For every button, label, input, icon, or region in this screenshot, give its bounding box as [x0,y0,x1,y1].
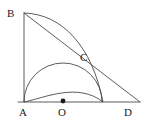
arc-semicircle-AO [24,63,102,102]
point-marker-O [61,99,66,104]
vertex-label-B: B [7,8,14,19]
vertex-label-C: C [80,52,87,63]
vertex-label-D: D [124,107,132,118]
vertex-label-O: O [58,107,66,118]
geometry-figure: B C A O D [0,0,150,131]
vertex-label-A: A [19,107,27,118]
arc-B-to-base [24,13,103,102]
